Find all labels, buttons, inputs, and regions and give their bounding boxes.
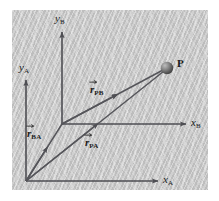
- diagram-vector-art: [0, 0, 219, 201]
- vector-label-r-pa: rPA: [85, 137, 99, 150]
- axis-label-x-a: xA: [163, 174, 173, 187]
- axis-label-y-a: yA: [19, 62, 29, 75]
- frame-b-axes: [62, 32, 186, 124]
- figure-diagram: yB yA xB xA P rPB rBA rPA: [0, 0, 219, 201]
- vector-r-pb: [62, 70, 163, 124]
- vector-arrow-overbar-icon: [26, 123, 35, 128]
- axis-label-y-b: yB: [55, 13, 65, 26]
- vector-arrow-overbar-icon: [84, 132, 93, 137]
- point-p-label: P: [177, 58, 184, 69]
- vector-label-r-ba: rBA: [27, 128, 41, 141]
- point-p-marker: [161, 62, 173, 74]
- vector-label-r-pb: rPB: [90, 84, 104, 97]
- axis-label-x-b: xB: [191, 117, 201, 130]
- vector-arrow-overbar-icon: [89, 79, 98, 84]
